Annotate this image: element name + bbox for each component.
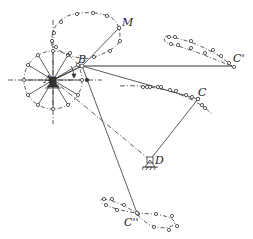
label-A: A bbox=[43, 73, 52, 86]
label-C: C bbox=[198, 86, 207, 99]
label-M: M bbox=[121, 16, 134, 29]
joint-M bbox=[117, 26, 121, 30]
label-B: B bbox=[77, 53, 86, 66]
joint-C2 bbox=[135, 211, 139, 215]
joint-mid bbox=[85, 78, 89, 82]
link-BC2 bbox=[82, 66, 137, 213]
rocker-CD bbox=[150, 99, 198, 160]
label-D: D bbox=[154, 154, 164, 167]
label-C1: C' bbox=[233, 52, 244, 65]
frame-AD bbox=[53, 80, 150, 160]
coupler-curve-C2-points bbox=[102, 197, 178, 231]
linkage-diagram: A B M C' C D C'' bbox=[0, 0, 253, 239]
coupler-curve-C1 bbox=[164, 36, 232, 66]
label-C2: C'' bbox=[124, 216, 138, 229]
link-BC bbox=[82, 66, 198, 99]
link-BM bbox=[82, 28, 119, 66]
coupler-curve-C1-points bbox=[167, 35, 235, 68]
